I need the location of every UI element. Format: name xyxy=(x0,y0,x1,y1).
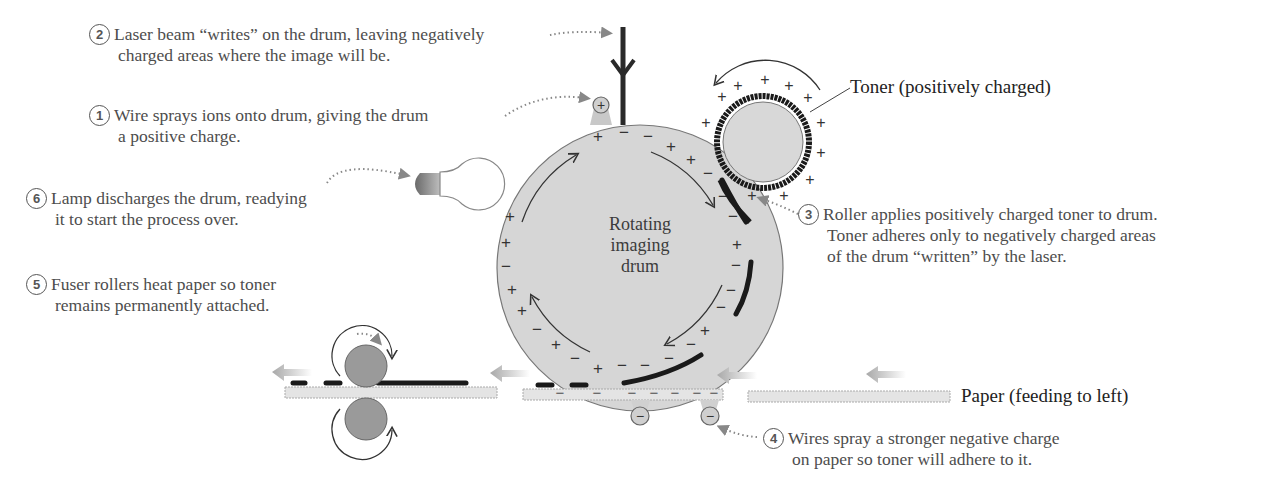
svg-text:+: + xyxy=(733,77,742,94)
laser-printer-diagram: + +−− ++− −−+ −−− +−− −−+ −+− ++− ++ xyxy=(0,0,1266,489)
step-3-label: 3Roller applies positively charged toner… xyxy=(798,204,1158,267)
paper-label: Paper (feeding to left) xyxy=(961,385,1128,407)
step-number-badge: 4 xyxy=(763,428,784,449)
svg-text:+: + xyxy=(507,280,517,299)
svg-text:−: − xyxy=(716,298,726,317)
charging-wire-icon: + xyxy=(590,97,612,125)
toner-label: Toner (positively charged) xyxy=(850,76,1051,98)
svg-text:−: − xyxy=(619,123,629,142)
step-2-label: 2Laser beam “writes” on the drum, leavin… xyxy=(89,24,484,66)
svg-text:−: − xyxy=(643,127,653,146)
svg-text:−: − xyxy=(636,408,644,424)
svg-text:−: − xyxy=(693,384,702,401)
step-number-badge: 1 xyxy=(89,105,110,126)
svg-text:+: + xyxy=(816,114,825,131)
svg-text:−: − xyxy=(570,349,580,368)
svg-text:+: + xyxy=(505,207,515,226)
step-6-label: 6Lamp discharges the drum, readying it t… xyxy=(26,188,307,230)
svg-text:+: + xyxy=(597,97,605,113)
svg-text:−: − xyxy=(731,256,741,275)
svg-text:−: − xyxy=(650,384,659,401)
svg-text:+: + xyxy=(666,137,676,156)
svg-text:+: + xyxy=(517,301,527,320)
svg-text:+: + xyxy=(551,335,561,354)
svg-text:+: + xyxy=(732,235,742,254)
svg-text:−: − xyxy=(617,356,627,375)
step-4-label: 4Wires spray a stronger negative charge … xyxy=(763,428,1060,470)
svg-text:+: + xyxy=(593,359,603,378)
svg-text:+: + xyxy=(816,144,825,161)
svg-text:−: − xyxy=(628,384,637,401)
svg-text:−: − xyxy=(706,408,714,424)
svg-text:+: + xyxy=(700,321,710,340)
svg-text:+: + xyxy=(784,77,793,94)
step-number-badge: 5 xyxy=(26,274,47,295)
svg-text:+: + xyxy=(805,171,814,188)
svg-text:−: − xyxy=(664,349,674,368)
svg-text:−: − xyxy=(640,356,650,375)
step-1-label: 1Wire sprays ions onto drum, giving the … xyxy=(89,105,428,147)
svg-text:−: − xyxy=(710,384,719,401)
svg-text:+: + xyxy=(593,127,603,146)
svg-text:−: − xyxy=(686,335,696,354)
svg-text:−: − xyxy=(703,164,713,183)
step-number-badge: 6 xyxy=(26,188,47,209)
lamp-icon xyxy=(415,158,505,210)
svg-text:+: + xyxy=(717,88,726,105)
step-number-badge: 3 xyxy=(798,204,819,225)
svg-text:−: − xyxy=(501,257,511,276)
step-number-badge: 2 xyxy=(89,24,110,45)
step-5-label: 5Fuser rollers heat paper so toner remai… xyxy=(26,274,276,316)
svg-text:−: − xyxy=(556,384,565,401)
svg-text:+: + xyxy=(760,71,769,88)
svg-text:+: + xyxy=(779,187,788,204)
svg-text:+: + xyxy=(701,114,710,131)
svg-text:−: − xyxy=(726,281,736,300)
laser-beam xyxy=(612,27,634,125)
drum-label: Rotating imaging drum xyxy=(576,214,704,277)
svg-text:+: + xyxy=(747,187,756,204)
svg-text:−: − xyxy=(532,320,542,339)
svg-text:+: + xyxy=(803,89,812,106)
svg-text:+: + xyxy=(686,150,696,169)
svg-text:−: − xyxy=(671,384,680,401)
svg-text:+: + xyxy=(501,233,511,252)
svg-text:−: − xyxy=(593,384,602,401)
